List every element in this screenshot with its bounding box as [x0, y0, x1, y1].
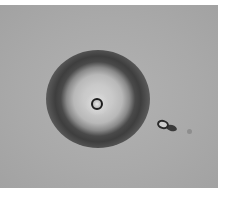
central-particle — [91, 98, 103, 110]
debris-spot — [187, 129, 192, 134]
micrograph — [0, 5, 218, 188]
